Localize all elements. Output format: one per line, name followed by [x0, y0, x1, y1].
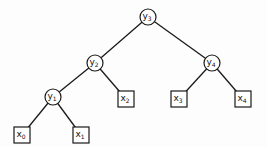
edge-y3-y2 — [95, 17, 148, 63]
node-x0: x0 — [14, 127, 30, 143]
tree-svg: y3y2y4y1x0x1x2x3x4 — [0, 0, 267, 147]
node-x4: x4 — [235, 91, 251, 107]
node-x3: x3 — [171, 91, 187, 107]
node-y2: y2 — [87, 55, 103, 71]
node-y3: y3 — [140, 9, 156, 25]
edge-y3-y4 — [148, 17, 212, 63]
node-y1: y1 — [45, 89, 61, 105]
node-x1: x1 — [73, 127, 89, 143]
node-y4: y4 — [204, 55, 220, 71]
tree-diagram: y3y2y4y1x0x1x2x3x4 — [0, 0, 267, 147]
node-x2: x2 — [118, 91, 134, 107]
